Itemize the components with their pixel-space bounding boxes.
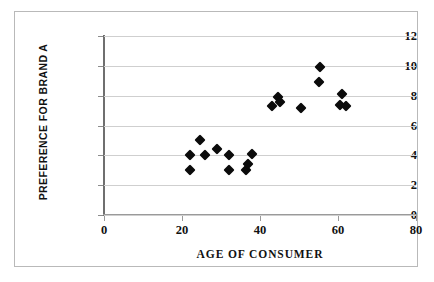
x-tick-label-80: 80 — [401, 224, 431, 236]
scatter-chart-figure: PREFERENCE FOR BRAND A 12 10 8 6 4 2 0 0… — [0, 0, 434, 282]
data-point — [336, 89, 347, 100]
data-point — [223, 150, 234, 161]
data-point — [184, 150, 195, 161]
x-tick-label-0: 0 — [89, 224, 119, 236]
chart-frame: PREFERENCE FOR BRAND A 12 10 8 6 4 2 0 0… — [14, 11, 418, 267]
gridline-y-2 — [104, 185, 416, 186]
plot-area — [104, 36, 416, 215]
gridline-y-4 — [104, 155, 416, 156]
data-point — [194, 135, 205, 146]
x-tick-mark-80 — [416, 215, 417, 221]
data-point — [315, 62, 326, 73]
data-point — [295, 102, 306, 113]
gridline-y-0 — [104, 215, 416, 216]
x-axis-title: AGE OF CONSUMER — [104, 248, 416, 260]
gridline-y-12 — [104, 36, 416, 37]
gridline-y-10 — [104, 66, 416, 67]
y-axis-title: PREFERENCE FOR BRAND A — [37, 32, 49, 212]
gridline-y-6 — [104, 126, 416, 127]
data-point — [184, 165, 195, 176]
data-point — [223, 165, 234, 176]
data-point — [313, 77, 324, 88]
x-tick-label-40: 40 — [245, 224, 275, 236]
x-tick-label-60: 60 — [323, 224, 353, 236]
data-point — [200, 150, 211, 161]
data-point — [211, 144, 222, 155]
x-tick-label-20: 20 — [167, 224, 197, 236]
gridline-y-8 — [104, 96, 416, 97]
